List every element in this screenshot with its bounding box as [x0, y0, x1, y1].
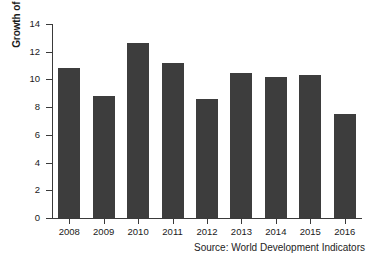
bar: [265, 77, 287, 218]
y-tick-mark: [46, 218, 52, 219]
bar: [230, 73, 252, 219]
x-tick-label: 2016: [325, 226, 365, 237]
x-tick-mark: [276, 219, 277, 224]
y-tick-label: 2: [0, 184, 40, 195]
bar: [334, 114, 356, 218]
gdp-growth-bar-chart: Growth of real GDP (% p.a.) 02468101214 …: [0, 0, 379, 264]
x-tick-mark: [69, 219, 70, 224]
bar: [299, 75, 321, 218]
bar: [196, 99, 218, 218]
y-tick-label: 0: [0, 212, 40, 223]
x-tick-mark: [310, 219, 311, 224]
y-tick-label: 10: [0, 73, 40, 84]
x-tick-mark: [138, 219, 139, 224]
bar: [58, 68, 80, 218]
x-tick-mark: [104, 219, 105, 224]
bar: [127, 43, 149, 218]
y-tick-label: 8: [0, 101, 40, 112]
bars-layer: [52, 24, 362, 218]
bar: [162, 63, 184, 218]
bar: [93, 96, 115, 218]
y-tick-label: 12: [0, 46, 40, 57]
y-tick-label: 6: [0, 129, 40, 140]
x-tick-mark: [241, 219, 242, 224]
chart-title-cropped: [0, 0, 379, 5]
source-note: Source: World Development Indicators: [194, 242, 365, 253]
x-tick-mark: [345, 219, 346, 224]
x-tick-mark: [173, 219, 174, 224]
y-tick-label: 4: [0, 157, 40, 168]
y-tick-label: 14: [0, 18, 40, 29]
x-tick-mark: [207, 219, 208, 224]
